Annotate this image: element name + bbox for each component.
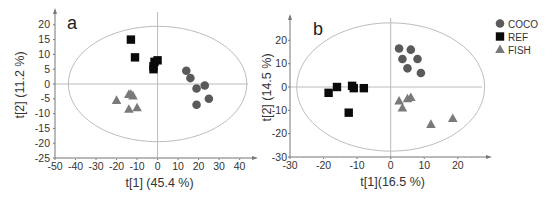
y-tick-label: -30 <box>272 151 287 163</box>
legend-label: REF <box>508 32 528 43</box>
x-tick-label: -10 <box>129 160 144 172</box>
y-tick-label: -25 <box>35 152 50 164</box>
data-point-ref <box>127 35 135 43</box>
data-point-coco <box>395 44 404 53</box>
data-point-coco <box>192 84 201 93</box>
y-tick-label: 0 <box>44 78 50 90</box>
y-axis-arrow-icon <box>288 14 292 20</box>
data-point-ref <box>131 53 139 61</box>
panel-a-score-plot: -50-40-30-20-1001020304020151050-5-10-15… <box>13 8 258 190</box>
data-point-coco <box>398 55 407 64</box>
x-tick-label: -40 <box>68 160 83 172</box>
series-coco <box>182 66 213 109</box>
series-coco <box>395 44 425 77</box>
x-tick-label: 40 <box>234 160 246 172</box>
x-tick-label: 20 <box>452 159 464 171</box>
y-tick-label: -15 <box>35 122 50 134</box>
panel-label: b <box>313 19 323 39</box>
data-point-coco <box>407 45 416 54</box>
x-axis-arrow-icon <box>486 155 492 159</box>
y-tick-label: -20 <box>35 137 50 149</box>
y-tick-label: 10 <box>275 57 287 69</box>
triangle-marker-icon <box>495 45 505 54</box>
data-point-fish <box>112 95 122 104</box>
x-axis-label: t[1] (45.4 %) <box>126 176 194 190</box>
data-point-coco <box>417 69 426 78</box>
y-axis-label: t[2] (14.5 %) <box>260 53 274 121</box>
data-point-coco <box>403 64 412 73</box>
data-point-ref <box>350 84 358 92</box>
data-point-coco <box>205 95 214 104</box>
panel-label: a <box>67 13 78 33</box>
x-tick-label: 0 <box>155 160 161 172</box>
x-axis-label: t[1](16.5 %) <box>360 175 425 189</box>
y-tick-label: -5 <box>41 92 50 104</box>
legend-label: COCO <box>508 19 538 30</box>
series-fish <box>394 93 457 128</box>
legend-item-fish: FISH <box>495 45 531 56</box>
data-point-coco <box>413 55 422 64</box>
legend-item-coco: COCO <box>496 19 539 30</box>
data-point-fish <box>132 103 142 112</box>
y-tick-label: 0 <box>281 81 287 93</box>
x-tick-label: 10 <box>172 160 184 172</box>
y-tick-label: 5 <box>44 63 50 75</box>
y-tick-label: 20 <box>38 18 50 30</box>
legend: COCOREFFISH <box>495 19 538 56</box>
x-tick-label: 20 <box>193 160 205 172</box>
circle-marker-icon <box>496 19 505 28</box>
x-tick-label: -20 <box>316 159 331 171</box>
x-tick-label: -10 <box>350 159 365 171</box>
y-tick-label: -20 <box>272 127 287 139</box>
legend-label: FISH <box>508 45 531 56</box>
data-point-fish <box>426 119 436 128</box>
x-tick-label: -20 <box>109 160 124 172</box>
series-fish <box>112 89 142 112</box>
x-tick-label: 30 <box>213 160 225 172</box>
y-tick-label: 20 <box>275 34 287 46</box>
square-marker-icon <box>496 32 504 40</box>
pca-score-plots-figure: -50-40-30-20-1001020304020151050-5-10-15… <box>0 0 548 198</box>
y-axis-label: t[2] (11.2 %) <box>13 51 27 118</box>
data-point-coco <box>182 66 191 75</box>
data-point-ref <box>345 108 353 116</box>
x-tick-label: 0 <box>388 159 394 171</box>
data-point-ref <box>153 56 161 64</box>
data-point-coco <box>200 81 209 90</box>
panel-b-score-plot: -30-20-100102020100-10-20-30t[1](16.5 %)… <box>260 14 492 189</box>
data-point-ref <box>333 83 341 91</box>
data-point-coco <box>186 74 195 83</box>
x-tick-label: -30 <box>88 160 103 172</box>
data-point-ref <box>360 84 368 92</box>
figure-canvas: -50-40-30-20-1001020304020151050-5-10-15… <box>0 0 548 198</box>
y-tick-label: -10 <box>272 104 287 116</box>
data-point-ref <box>324 89 332 97</box>
y-tick-label: 15 <box>38 33 50 45</box>
data-point-fish <box>448 114 458 123</box>
data-point-ref <box>149 65 157 73</box>
x-tick-label: 10 <box>418 159 430 171</box>
series-ref <box>127 35 162 73</box>
data-point-fish <box>124 104 134 113</box>
y-tick-label: -10 <box>35 107 50 119</box>
x-axis-arrow-icon <box>252 156 258 160</box>
y-axis-arrow-icon <box>53 8 57 14</box>
data-point-coco <box>192 100 201 109</box>
legend-item-ref: REF <box>496 32 528 43</box>
y-tick-label: 10 <box>38 48 50 60</box>
